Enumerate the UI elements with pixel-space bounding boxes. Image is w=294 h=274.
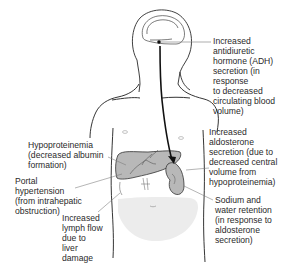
- lymph-flow-label: Increased lymph flow due to liver damage: [62, 213, 103, 263]
- nipple-right: [179, 137, 184, 140]
- adh-label: Increased antidiuretic hormone (ADH) sec…: [213, 36, 294, 116]
- sodium-retention-label: Sodium and water retention (in response …: [215, 195, 272, 245]
- hypoproteinemia-label: Hypoproteinemia (decreased albumin forma…: [28, 140, 103, 170]
- abdomen-fluid: [118, 197, 198, 241]
- head-outline: [132, 10, 191, 92]
- nipple-left: [123, 131, 128, 134]
- brain-icon: [142, 16, 184, 44]
- hormone-arrow: [160, 46, 172, 160]
- kidney-icon: [166, 163, 184, 195]
- portal-hypertension-label: Portal hypertension (from intrahepatic o…: [15, 176, 82, 216]
- ascites-diagram: Increased antidiuretic hormone (ADH) sec…: [0, 0, 294, 274]
- aldosterone-label: Increased aldosterone secretion (due to …: [209, 127, 277, 187]
- pituitary-marker: [157, 40, 161, 44]
